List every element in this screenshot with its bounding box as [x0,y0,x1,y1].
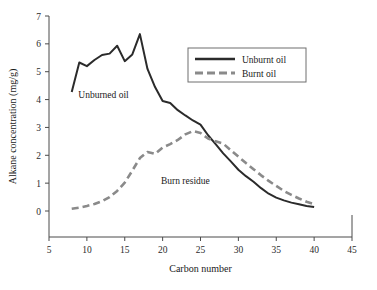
y-tick-label: 3 [36,123,41,133]
y-tick-label: 2 [36,151,41,161]
y-axis-ticks: 01234567 [36,12,49,217]
x-axis-ticks: 51015202530354045 [47,237,357,255]
x-axis-title: Carbon number [169,263,232,274]
x-tick-label: 20 [158,245,168,255]
y-tick-label: 0 [36,207,41,217]
x-tick-label: 40 [309,245,319,255]
series-line-burnt-oil [72,131,314,209]
plot-annotation-burn-residue: Burn residue [161,176,210,186]
y-tick-label: 5 [36,67,41,77]
legend-label-unburnt-oil: Unburnt oil [242,55,286,65]
y-tick-label: 7 [36,12,41,22]
chart-container: 51015202530354045 01234567 Unburned oilB… [0,0,377,290]
x-tick-label: 10 [82,245,92,255]
y-tick-label: 1 [36,179,41,189]
y-tick-label: 6 [36,39,41,49]
y-axis-title: Alkane concentration (mg/g) [7,69,19,185]
plot-annotations: Unburned oilBurn residue [78,90,209,186]
legend-label-burnt-oil: Burnt oil [242,69,276,79]
x-tick-label: 35 [272,245,282,255]
x-tick-label: 5 [47,245,52,255]
chart-legend: Unburnt oilBurnt oil [188,48,306,82]
alkane-concentration-line-chart: 51015202530354045 01234567 Unburned oilB… [0,0,377,290]
x-tick-label: 15 [120,245,130,255]
plot-annotation-unburned-oil: Unburned oil [78,90,129,100]
y-tick-label: 4 [36,95,41,105]
x-tick-label: 25 [196,245,206,255]
x-tick-label: 30 [234,245,244,255]
x-tick-label: 45 [347,245,357,255]
